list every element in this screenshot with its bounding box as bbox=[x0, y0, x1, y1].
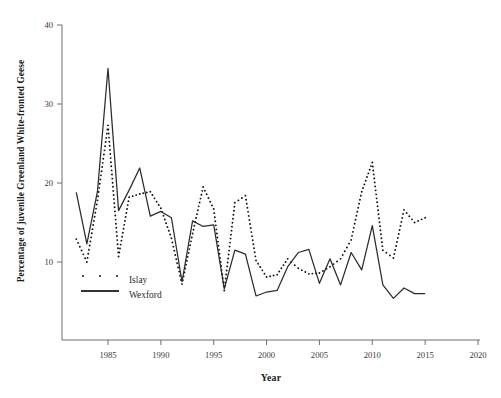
x-tick-label: 1985 bbox=[99, 350, 116, 360]
legend-item-wexford: Wexford bbox=[78, 287, 198, 302]
figure-canvas: Percentage of juvenile Greenland White-f… bbox=[0, 0, 501, 398]
x-tick-label: 2005 bbox=[311, 350, 328, 360]
x-axis-title: Year bbox=[62, 372, 480, 383]
series-line-wexford bbox=[76, 68, 425, 298]
legend-item-islay: Islay bbox=[78, 272, 198, 287]
legend-label-islay: Islay bbox=[129, 275, 147, 285]
x-tick-label: 2000 bbox=[258, 350, 275, 360]
dotted-marker-key bbox=[78, 275, 122, 285]
y-tick-label: 40 bbox=[44, 20, 53, 30]
solid-line-key bbox=[78, 290, 122, 300]
x-tick-label: 1995 bbox=[205, 350, 222, 360]
x-tick-label: 1990 bbox=[152, 350, 169, 360]
legend-label-wexford: Wexford bbox=[129, 290, 162, 300]
y-tick-label: 30 bbox=[44, 99, 53, 109]
series-dotted-islay bbox=[75, 124, 426, 291]
y-tick-label: 10 bbox=[44, 257, 53, 267]
x-tick-label: 2010 bbox=[364, 350, 381, 360]
plot-area: 1020304019851990199520002005201020152020 bbox=[0, 0, 501, 398]
x-tick-label: 2020 bbox=[469, 350, 486, 360]
y-tick-label: 20 bbox=[44, 178, 53, 188]
x-tick-label: 2015 bbox=[417, 350, 434, 360]
legend: Islay Wexford bbox=[78, 272, 198, 302]
